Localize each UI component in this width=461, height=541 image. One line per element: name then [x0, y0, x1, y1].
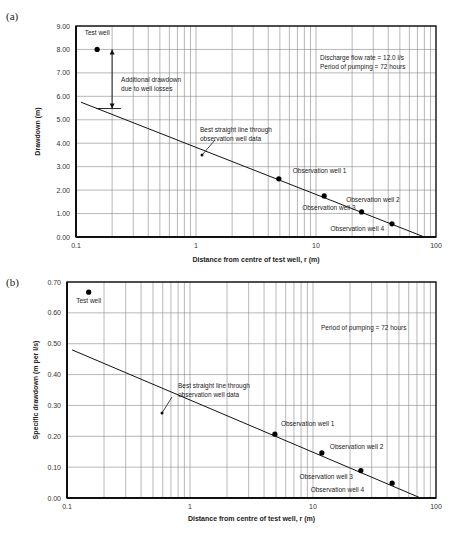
best-fit-line: [81, 102, 424, 237]
data-point-observation-well-1: [272, 432, 277, 437]
data-point-test-well: [86, 290, 91, 295]
y-tick-label: 7.00: [56, 69, 70, 76]
y-tick-label: 0.30: [47, 402, 61, 409]
plot-frame: [67, 282, 436, 498]
y-tick-label: 0.00: [47, 495, 61, 502]
fit-label-arrow-head: [161, 412, 164, 415]
x-axis-label: Distance from centre of test well, r (m): [192, 256, 319, 264]
y-tick-label: 1.00: [56, 210, 70, 217]
y-axis-label: Specific drawdown (m per l/s): [32, 341, 40, 440]
y-tick-label: 0.10: [47, 464, 61, 471]
data-point-observation-well-4: [390, 481, 395, 486]
well-loss-arrow-head-bottom: [110, 104, 115, 109]
x-tick-label: 1: [194, 242, 198, 249]
x-tick-label: 0.1: [71, 242, 81, 249]
data-point-observation-well-3: [359, 209, 364, 214]
y-tick-label: 0.40: [47, 371, 61, 378]
x-tick-label: 1: [188, 503, 192, 510]
fit-label-arrow: [162, 397, 172, 413]
x-tick-label: 100: [430, 503, 442, 510]
x-tick-label: 10: [312, 242, 320, 249]
y-tick-label: 4.00: [56, 140, 70, 147]
fit-label-arrow-head: [201, 154, 204, 157]
y-tick-label: 6.00: [56, 93, 70, 100]
fit-line-label: Best straight line through: [200, 126, 272, 134]
y-tick-label: 0.20: [47, 433, 61, 440]
y-tick-label: 8.00: [56, 46, 70, 53]
data-point-observation-well-4: [389, 221, 394, 226]
chart-panel-a: 0.001.002.003.004.005.006.007.008.009.00…: [6, 10, 442, 264]
y-tick-label: 5.00: [56, 116, 70, 123]
well-loss-label: Additional drawdown: [121, 76, 181, 83]
well-loss-label: due to well losses: [121, 85, 173, 92]
panel-label: (a): [6, 10, 19, 23]
panel-label: (b): [6, 276, 19, 289]
figure: 0.001.002.003.004.005.006.007.008.009.00…: [0, 0, 461, 541]
data-point-observation-well-2: [319, 450, 324, 455]
chart-panel-b: 0.000.100.200.300.400.500.600.700.111010…: [6, 276, 442, 523]
point-label: Observation well 1: [281, 420, 335, 427]
data-point-observation-well-2: [322, 193, 327, 198]
well-loss-arrow-head-top: [110, 49, 115, 54]
x-tick-label: 100: [430, 242, 442, 249]
point-label: Observation well 4: [331, 225, 385, 232]
point-label: Observation well 3: [302, 204, 356, 211]
point-label: Observation well 4: [311, 486, 365, 493]
y-tick-label: 2.00: [56, 187, 70, 194]
point-label: Observation well 2: [330, 443, 384, 450]
y-tick-label: 9.00: [56, 23, 70, 30]
data-point-observation-well-1: [276, 176, 281, 181]
info-text: Discharge flow rate = 12.0 l/s: [320, 54, 405, 62]
y-tick-label: 0.70: [47, 279, 61, 286]
fit-line-label: Best straight line through: [178, 382, 250, 390]
y-tick-label: 0.00: [56, 234, 70, 241]
x-tick-label: 10: [309, 503, 317, 510]
fit-line-label: observation well data: [200, 135, 261, 142]
point-label: Observation well 1: [293, 167, 347, 174]
data-point-observation-well-3: [358, 468, 363, 473]
x-axis-label: Distance from centre of test well, r (m): [188, 515, 315, 523]
point-label: Test well: [85, 29, 110, 36]
best-fit-line: [72, 350, 421, 498]
y-tick-label: 0.60: [47, 309, 61, 316]
y-axis-label: Drawdown (m): [34, 107, 42, 155]
y-tick-label: 0.50: [47, 340, 61, 347]
fit-line-label: observation well data: [178, 391, 239, 398]
info-text: Period of pumping = 72 hours: [321, 324, 407, 332]
point-label: Observation well 3: [299, 473, 353, 480]
data-point-test-well: [95, 47, 100, 52]
point-label: Test well: [76, 297, 101, 304]
point-label: Observation well 2: [346, 196, 400, 203]
info-text: Period of pumping = 72 hours: [320, 63, 406, 71]
x-tick-label: 0.1: [62, 503, 72, 510]
y-tick-label: 3.00: [56, 163, 70, 170]
